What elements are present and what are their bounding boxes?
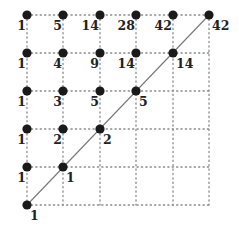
point-label: 2 (53, 134, 62, 147)
point-label: 1 (17, 20, 26, 33)
point-label: 1 (17, 58, 26, 71)
diagonal-line (27, 15, 209, 205)
point-label: 1 (30, 210, 39, 223)
point-label: 1 (17, 172, 26, 185)
point-label: 1 (17, 96, 26, 109)
point-label: 1 (66, 172, 75, 185)
point-label: 1 (17, 134, 26, 147)
point-label: 5 (90, 96, 99, 109)
point-label: 14 (82, 20, 99, 33)
catalan-lattice-diagram: 151428424214914141355122111 (0, 0, 239, 233)
point-label: 3 (53, 96, 62, 109)
point-label: 28 (118, 20, 135, 33)
point-label: 5 (53, 20, 62, 33)
point-label: 42 (155, 20, 172, 33)
point-label: 14 (176, 58, 193, 71)
point-label: 42 (212, 20, 229, 33)
point-label: 4 (53, 58, 62, 71)
point-label: 14 (118, 58, 135, 71)
lattice-grid (0, 0, 239, 233)
point-label: 5 (139, 96, 148, 109)
point-label: 2 (103, 134, 112, 147)
point-label: 9 (90, 58, 99, 71)
